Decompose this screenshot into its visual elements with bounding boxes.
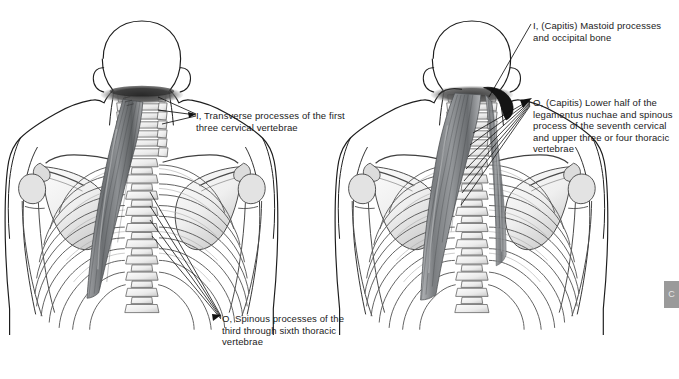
left-figure-group (5, 21, 278, 335)
callout-left-origin: O, Spinous processes of the third throug… (222, 313, 362, 348)
page-edge-tab[interactable]: C (664, 281, 679, 308)
illustration-page: I, Transverse processes of the first thr… (0, 0, 679, 379)
callout-right-origin: O, (Capitis) Lower half of the legamentu… (533, 97, 675, 155)
right-insertion-leaders (489, 24, 531, 97)
callout-left-insertion: I, Transverse processes of the first thr… (196, 110, 346, 133)
callout-right-insertion: I, (Capitis) Mastoid processes and occip… (533, 20, 673, 43)
right-figure-group (335, 21, 608, 335)
